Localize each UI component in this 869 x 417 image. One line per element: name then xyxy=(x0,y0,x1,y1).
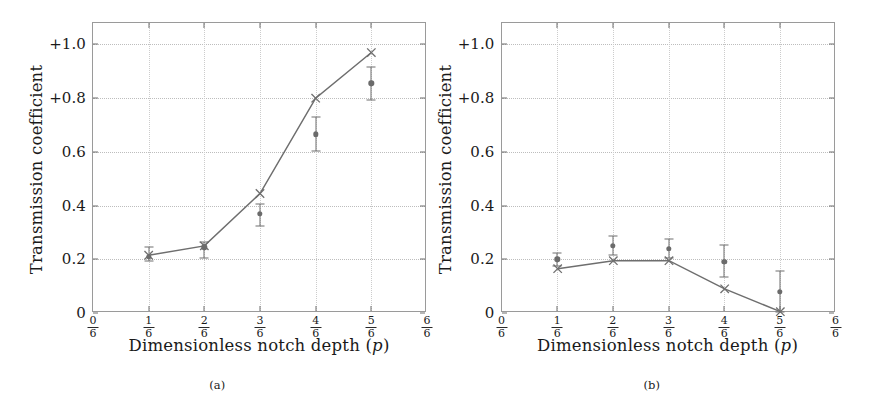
x-axis-label-text-b: Dimensionless notch depth xyxy=(537,336,769,355)
figure-two-panel: 00.20.40.6+0.8+1.006162636465666 Transmi… xyxy=(0,0,869,417)
theory-marker-x xyxy=(367,48,375,56)
data-series-layer xyxy=(93,23,427,313)
error-bar-cap xyxy=(664,239,673,240)
error-bar-cap xyxy=(144,260,153,261)
x-axis-label-a: Dimensionless notch depth (p) xyxy=(92,336,426,355)
error-bar-cap xyxy=(311,150,320,151)
panel-caption-a: (a) xyxy=(0,378,435,392)
panel-b: 00.20.40.6+0.8+1.006162636465666 Transmi… xyxy=(435,0,869,417)
x-axis-label-b: Dimensionless notch depth (p) xyxy=(501,336,835,355)
error-bar-cap xyxy=(720,244,729,245)
y-tick-label: 0.6 xyxy=(62,143,86,161)
error-bar-cap xyxy=(775,271,784,272)
theory-marker-x xyxy=(256,189,264,197)
error-bar-cap xyxy=(367,67,376,68)
y-tick-label: 0 xyxy=(76,304,86,322)
y-tick-label: +1.0 xyxy=(49,35,86,53)
error-bar-cap xyxy=(256,204,265,205)
y-tick-label: 0.4 xyxy=(470,197,494,215)
y-axis-label-b: Transmission coefficient xyxy=(435,50,454,290)
error-bar-cap xyxy=(664,257,673,258)
error-bar-cap xyxy=(553,252,562,253)
error-bar-cap xyxy=(720,276,729,277)
x-axis-label-text-a: Dimensionless notch depth xyxy=(128,336,360,355)
y-tick-label: 0 xyxy=(485,304,495,322)
error-bar-cap xyxy=(608,255,617,256)
error-bar-cap xyxy=(144,247,153,248)
y-tick-label: +0.8 xyxy=(458,89,495,107)
error-bar-cap xyxy=(367,99,376,100)
theory-marker-x xyxy=(311,94,319,102)
x-axis-label-symbol-a: (p) xyxy=(365,336,389,355)
y-axis-label-a: Transmission coefficient xyxy=(27,50,46,290)
y-tick-label: 0.6 xyxy=(470,143,494,161)
panel-a: 00.20.40.6+0.8+1.006162636465666 Transmi… xyxy=(0,0,435,417)
panel-caption-b: (b) xyxy=(435,378,869,392)
y-tick-label: 0.4 xyxy=(62,197,86,215)
plot-area-b: 00.20.40.6+0.8+1.006162636465666 xyxy=(501,22,835,312)
theory-line xyxy=(557,261,780,312)
y-tick-label: +1.0 xyxy=(458,35,495,53)
x-axis-label-symbol-b: (p) xyxy=(774,336,798,355)
y-tick-label: 0.2 xyxy=(470,250,494,268)
data-series-layer xyxy=(502,23,836,313)
error-bar-cap xyxy=(200,241,209,242)
error-bar-cap xyxy=(256,225,265,226)
error-bar-cap xyxy=(608,236,617,237)
error-bar-cap xyxy=(200,257,209,258)
error-bar-cap xyxy=(311,116,320,117)
plot-area-a: 00.20.40.6+0.8+1.006162636465666 xyxy=(92,22,426,312)
error-bar-cap xyxy=(775,311,784,312)
y-tick-label: +0.8 xyxy=(49,89,86,107)
error-bar-cap xyxy=(553,266,562,267)
y-tick-label: 0.2 xyxy=(62,250,86,268)
theory-marker-x xyxy=(720,285,728,293)
